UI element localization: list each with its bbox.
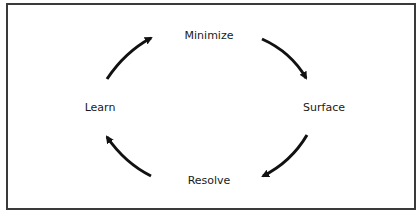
node-resolve: Resolve: [188, 174, 231, 187]
arrow-surface-to-resolve: [263, 135, 307, 176]
node-minimize: Minimize: [185, 29, 234, 42]
arrow-minimize-to-surface: [262, 39, 306, 78]
node-surface: Surface: [303, 101, 345, 114]
arrow-resolve-to-learn: [107, 137, 151, 176]
node-learn: Learn: [85, 101, 116, 114]
arrow-learn-to-minimize: [107, 38, 151, 79]
